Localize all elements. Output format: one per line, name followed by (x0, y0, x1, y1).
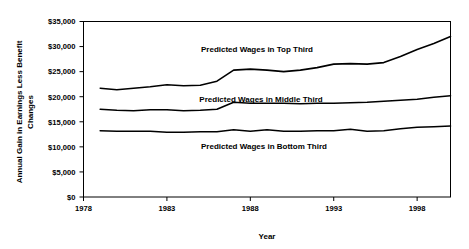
series-annotation-2: Predicted Wages in Bottom Third (201, 142, 327, 151)
y-axis-tick-label: $30,000 (48, 42, 75, 51)
x-axis-ticks (84, 197, 418, 201)
series-annotations-group: Predicted Wages in Top ThirdPredicted Wa… (199, 45, 327, 151)
y-axis-title-line2: Changes (26, 95, 35, 129)
x-axis-tick-label: 1988 (242, 204, 259, 213)
y-axis-tick-label: $25,000 (48, 67, 75, 76)
y-axis-ticks (80, 22, 84, 198)
y-axis-title-line1: Annual Gain in Earnings Less Benefit (15, 40, 24, 183)
x-axis-tick-labels: 19781983198819931998 (75, 204, 426, 213)
y-axis-tick-label: $20,000 (48, 93, 75, 102)
x-axis-tick-label: 1998 (409, 204, 426, 213)
series-annotation-1: Predicted Wages in Middle Third (199, 95, 322, 104)
y-axis-tick-label: $15,000 (48, 118, 75, 127)
x-axis-tick-label: 1978 (75, 204, 92, 213)
y-axis-tick-label: $35,000 (48, 17, 75, 26)
series-line-2 (100, 126, 450, 132)
x-axis-title: Year (259, 232, 276, 241)
y-axis-tick-label: $10,000 (48, 143, 75, 152)
y-axis-title: Annual Gain in Earnings Less Benefit Cha… (15, 40, 35, 183)
y-axis-tick-label: $5,000 (52, 168, 75, 177)
y-axis-tick-labels: $0$5,000$10,000$15,000$20,000$25,000$30,… (48, 17, 75, 202)
line-chart: $0$5,000$10,000$15,000$20,000$25,000$30,… (0, 0, 469, 249)
x-axis-tick-label: 1983 (158, 204, 175, 213)
y-axis-tick-label: $0 (67, 193, 75, 202)
x-axis-tick-label: 1993 (325, 204, 342, 213)
series-annotation-0: Predicted Wages in Top Third (201, 45, 313, 54)
chart-container: $0$5,000$10,000$15,000$20,000$25,000$30,… (0, 0, 469, 249)
